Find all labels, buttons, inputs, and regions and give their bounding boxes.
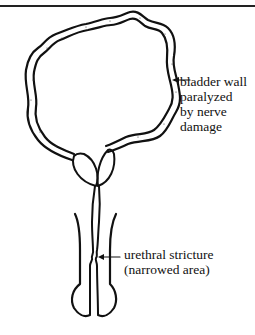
urethral-stricture-label: urethral stricture (narrowed area) (124, 247, 214, 277)
prostate-left-lobe (73, 154, 97, 186)
penis-right-outline (98, 214, 116, 316)
bladder-wall-label-line-4: damage (180, 119, 247, 134)
bladder-wall-label-line-2: paralyzed (180, 89, 247, 104)
bladder-wall-label: bladder wall paralyzed by nerve damage (180, 74, 247, 134)
urethra-left-line (90, 186, 95, 314)
stricture-arrowhead (98, 254, 104, 260)
bladder-outer-wall (26, 12, 180, 160)
penis-left-outline (72, 214, 90, 316)
prostate-right-lobe (97, 150, 114, 186)
bladder-wall-label-line-3: by nerve (180, 104, 247, 119)
urethra-right-line (96, 186, 100, 314)
bladder-inner-wall (34, 19, 173, 154)
bladder-diagram (0, 0, 255, 335)
stricture-label-line-2: (narrowed area) (124, 262, 214, 277)
stricture-label-line-1: urethral stricture (124, 247, 214, 262)
bladder-wall-label-line-1: bladder wall (180, 74, 247, 89)
